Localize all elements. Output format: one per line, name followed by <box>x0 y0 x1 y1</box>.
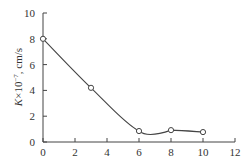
data-point-marker <box>40 36 45 41</box>
y-tick-label: 8 <box>30 33 36 45</box>
data-point-marker <box>88 85 93 90</box>
data-series <box>40 36 205 134</box>
y-tick-label: 0 <box>30 136 36 148</box>
x-tick-label: 12 <box>230 146 241 158</box>
series-line <box>43 39 203 135</box>
x-tick-label: 10 <box>198 146 210 158</box>
data-point-marker <box>136 128 141 133</box>
y-axis-label: K×10−7, cm/s <box>12 48 24 107</box>
x-axis-ticks: 024681012 <box>40 138 240 158</box>
y-tick-label: 2 <box>30 110 36 122</box>
x-tick-label: 0 <box>40 146 46 158</box>
x-tick-label: 4 <box>104 146 110 158</box>
x-tick-label: 6 <box>136 146 142 158</box>
y-tick-label: 4 <box>30 84 36 96</box>
y-tick-label: 10 <box>24 7 36 19</box>
x-tick-label: 8 <box>168 146 174 158</box>
data-point-marker <box>168 128 173 133</box>
y-axis-ticks: 0246810 <box>24 7 47 148</box>
data-point-marker <box>200 129 205 134</box>
y-tick-label: 6 <box>30 59 36 71</box>
chart-axes <box>43 13 235 142</box>
x-tick-label: 2 <box>72 146 78 158</box>
line-chart: 0246810 024681012 K×10−7, cm/s <box>0 0 249 165</box>
